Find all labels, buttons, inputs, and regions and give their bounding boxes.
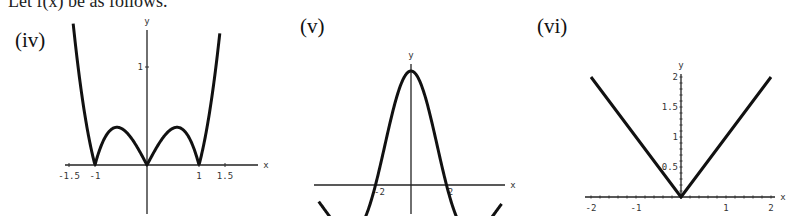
y-axis-label: y <box>678 60 684 70</box>
y-tick-label: 0.5 <box>662 162 678 172</box>
y-axis-label: y <box>408 50 414 60</box>
x-axis-label: x <box>510 180 516 190</box>
curve-damped-wave <box>319 71 502 216</box>
chart-vi: xy-2-1120.511.52 <box>585 60 786 213</box>
chart-iv: xy-1.5-111.51 <box>58 16 269 214</box>
x-tick-label: -2 <box>586 203 597 213</box>
x-axis-label: x <box>263 160 269 170</box>
chart-v: xy-22 <box>314 50 516 216</box>
x-tick-label: -1 <box>90 171 101 181</box>
x-tick-label: 1.5 <box>217 171 233 181</box>
x-tick-label: -1 <box>631 203 642 213</box>
x-axis-label: x <box>780 192 786 202</box>
y-tick-label: 1 <box>138 62 143 72</box>
y-axis-label: y <box>144 16 150 26</box>
y-tick-label: 1 <box>673 132 678 142</box>
x-tick-label: 1 <box>723 203 728 213</box>
x-tick-label: -1.5 <box>58 171 80 181</box>
x-tick-label: 1 <box>196 171 201 181</box>
plots-canvas: xy-1.5-111.51 xy-22 xy-2-1120.511.52 <box>0 0 794 216</box>
y-tick-label: 1.5 <box>662 102 678 112</box>
x-tick-label: 2 <box>768 203 773 213</box>
y-tick-label: 2 <box>673 72 678 82</box>
